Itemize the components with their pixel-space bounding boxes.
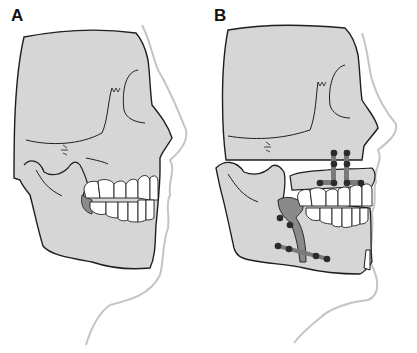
panel-a (14, 25, 186, 345)
screw (331, 180, 338, 187)
screw (313, 253, 320, 260)
screw (331, 161, 338, 168)
screw (324, 256, 331, 263)
screw (287, 222, 294, 229)
screw (275, 243, 282, 250)
figure-canvas (0, 0, 417, 353)
screw (331, 150, 338, 157)
screw (344, 150, 351, 157)
screw (286, 246, 293, 253)
skull-b (223, 25, 379, 160)
screw (277, 215, 284, 222)
screw (344, 161, 351, 168)
screw (358, 180, 365, 187)
screw (317, 180, 324, 187)
skull-a (14, 30, 172, 269)
screw (344, 180, 351, 187)
panel-b (216, 25, 396, 343)
